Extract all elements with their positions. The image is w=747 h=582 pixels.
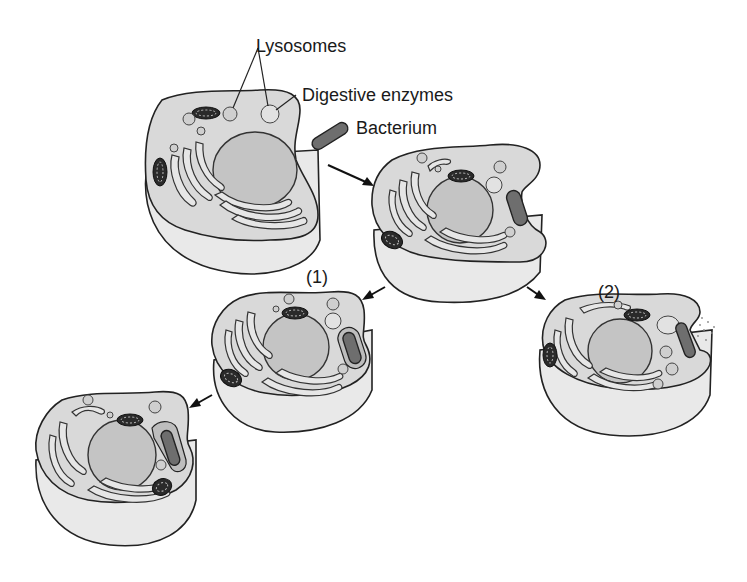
cell-2 <box>372 144 546 302</box>
lysosome-digestive-enzymes <box>261 105 279 123</box>
label-digestive-enzymes: Digestive enzymes <box>302 86 453 104</box>
lysosome-fusing <box>657 316 679 334</box>
arrow-stage-2-to-1 <box>362 287 385 300</box>
bacterium <box>310 120 350 151</box>
arrow-stage-2-to-2 <box>527 287 546 300</box>
arrow-stage-3-to-4 <box>189 395 212 408</box>
arrow-stage-1-to-2 <box>328 165 374 186</box>
cell-5 <box>540 294 715 436</box>
lysosome <box>223 107 237 121</box>
label-bacterium: Bacterium <box>356 119 437 137</box>
cell-3 <box>212 292 372 433</box>
label-lysosomes: Lysosomes <box>256 37 346 55</box>
lysosome <box>183 113 195 125</box>
label-pathway-2: (2) <box>598 283 620 301</box>
phagocytosis-diagram: Lysosomes Digestive enzymes Bacterium (1… <box>0 0 747 582</box>
cell-4 <box>36 392 196 546</box>
cell-1 <box>145 90 320 274</box>
label-pathway-1: (1) <box>306 268 328 286</box>
